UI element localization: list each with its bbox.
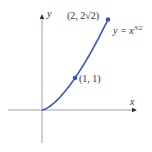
y-axis-label: y <box>47 8 51 19</box>
point-2-2root2 <box>106 17 111 22</box>
curve-label-text: y = x <box>113 25 134 36</box>
curve-y-equals-x-three-halves <box>42 19 108 110</box>
plot-area <box>0 0 152 152</box>
x-axis-label: x <box>130 96 134 107</box>
curve-label-exponent: 3/2 <box>134 24 143 32</box>
point-1-1 <box>73 76 78 81</box>
curve-label: y = x3/2 <box>113 25 143 36</box>
point-label-2-2root2: (2, 2√2) <box>67 10 99 21</box>
point-label-1-1: (1, 1) <box>79 73 101 84</box>
